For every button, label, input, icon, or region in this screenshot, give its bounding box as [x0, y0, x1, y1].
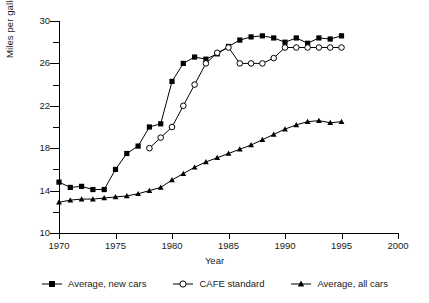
data-point — [327, 45, 333, 51]
data-point — [271, 35, 276, 40]
data-point — [271, 55, 277, 61]
data-point — [169, 124, 175, 130]
data-point — [169, 177, 175, 182]
data-point — [90, 187, 95, 192]
filled-square-icon — [41, 279, 63, 289]
data-point — [147, 145, 153, 151]
data-point — [102, 187, 107, 192]
data-point — [260, 137, 266, 142]
legend-label: Average, new cars — [68, 278, 147, 289]
data-point — [124, 151, 129, 156]
legend-item-average-all-cars: Average, all cars — [290, 278, 388, 289]
data-point — [192, 82, 198, 88]
data-point — [260, 33, 265, 38]
data-point — [339, 33, 344, 38]
chart-legend: Average, new cars CAFE standard Average,… — [0, 278, 429, 289]
data-point — [249, 34, 254, 39]
data-point — [226, 45, 232, 51]
data-point — [282, 40, 287, 45]
data-point — [169, 79, 174, 84]
data-point — [237, 37, 242, 42]
plot-area — [0, 0, 429, 303]
data-point — [56, 180, 61, 185]
data-point — [339, 45, 345, 51]
data-point — [305, 45, 311, 51]
data-point — [192, 164, 198, 169]
series-average-all-cars — [56, 118, 344, 205]
data-point — [237, 61, 243, 67]
data-point — [282, 45, 288, 51]
data-point — [136, 143, 141, 148]
data-point — [113, 167, 118, 172]
legend-label: CAFE standard — [199, 278, 264, 289]
data-point — [203, 61, 209, 67]
data-point — [328, 36, 333, 41]
filled-triangle-icon — [290, 279, 312, 289]
series-average-new-cars — [56, 33, 344, 192]
legend-item-cafe-standard: CAFE standard — [172, 278, 264, 289]
data-point — [316, 35, 321, 40]
data-point — [260, 61, 266, 67]
data-point — [158, 121, 163, 126]
data-point — [180, 171, 186, 176]
data-point — [248, 61, 254, 67]
open-circle-icon — [172, 279, 194, 289]
data-point — [147, 124, 152, 129]
data-point — [248, 142, 254, 147]
data-point — [214, 50, 220, 56]
data-point — [294, 45, 300, 51]
data-point — [192, 54, 197, 59]
legend-item-average-new-cars: Average, new cars — [41, 278, 147, 289]
data-point — [158, 135, 164, 141]
legend-label: Average, all cars — [317, 278, 388, 289]
data-point — [181, 61, 186, 66]
chart-figure: Miles per gallon (MPG) 101418222630 1970… — [0, 0, 429, 303]
data-point — [294, 35, 299, 40]
data-point — [158, 185, 164, 190]
data-point — [79, 184, 84, 189]
data-point — [316, 45, 322, 51]
data-point — [271, 132, 277, 137]
data-point — [181, 103, 187, 109]
series-cafe-standard — [147, 45, 345, 151]
data-point — [68, 185, 73, 190]
